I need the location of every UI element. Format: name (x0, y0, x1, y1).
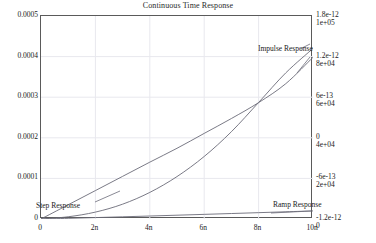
series-label-impulse: Impulse Response (258, 44, 313, 53)
y-tick-left: 0.0001 (17, 172, 38, 181)
x-tick: 6n (199, 223, 207, 232)
x-tick: 4n (145, 223, 153, 232)
y-tick-right-secondary: 4e+04 (316, 140, 335, 149)
y-tick-right-secondary: 8e+04 (316, 59, 335, 68)
x-tick: 0 (38, 223, 42, 232)
y-tick-right-secondary: 2e+04 (316, 180, 335, 189)
y-tick-left: 0.0002 (17, 132, 38, 141)
chart-root: Continuous Time Response 00.00010.00020.… (0, 0, 376, 243)
y-tick-left: 0.0003 (17, 91, 38, 100)
x-axis-labels: 02n4n6n8n10n (0, 223, 376, 237)
y-tick-left: 0 (34, 213, 38, 222)
x-tick: 2n (91, 223, 99, 232)
x-tick: 8n (254, 223, 262, 232)
series-label-step: Step Response (36, 201, 80, 210)
y-tick-right-secondary: 6e+04 (316, 99, 335, 108)
chart-title: Continuous Time Response (0, 1, 376, 10)
y-tick-right-secondary: 1e+05 (316, 18, 335, 27)
series-label-ramp: Ramp Response (273, 200, 322, 209)
x-tick: 10n (306, 223, 317, 232)
y-tick-left: 0.0005 (17, 10, 38, 19)
y-tick-left: 0.0004 (17, 51, 38, 60)
